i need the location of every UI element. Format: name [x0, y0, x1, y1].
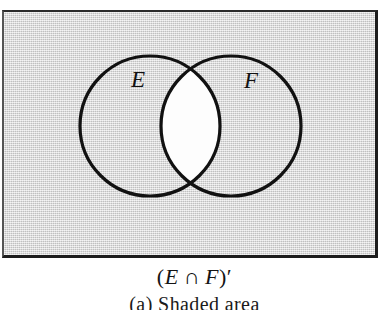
figure-subcaption: (a) Shaded area	[0, 293, 389, 310]
intersection-operator-icon: ∩	[179, 264, 205, 289]
expression-set-F: F	[205, 264, 219, 289]
expression-set-E: E	[165, 264, 179, 289]
venn-diagram-figure: E F (E∩F)′ (a) Shaded area	[0, 0, 389, 310]
set-label-E: E	[131, 68, 145, 91]
complement-prime: ′	[227, 264, 232, 289]
set-expression: (E∩F)′	[0, 264, 389, 290]
open-paren: (	[157, 264, 165, 289]
universal-set-rectangle	[2, 10, 378, 258]
caption-area: (E∩F)′ (a) Shaded area	[0, 260, 389, 310]
close-paren: )	[219, 264, 227, 289]
set-label-F: F	[244, 69, 258, 92]
